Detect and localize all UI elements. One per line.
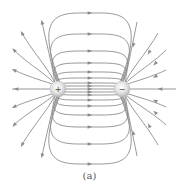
figure-caption: (a) (0, 170, 179, 181)
dipole-field-diagram: + − (0, 0, 179, 187)
plus-sign: + (55, 85, 62, 94)
field-lines (12, 13, 176, 164)
minus-sign: − (119, 85, 126, 94)
negative-charge: − (114, 81, 130, 97)
positive-charge: + (50, 81, 66, 97)
